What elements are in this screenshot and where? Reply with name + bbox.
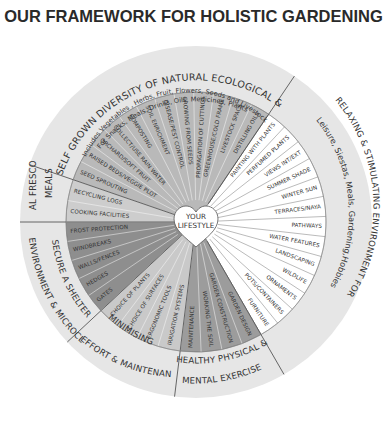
spoke-label: PATHWAYS (291, 222, 322, 229)
ring-label-alfresco-1: AL FRESCO (28, 160, 38, 210)
ring-label-alfresco-2: MEALS (44, 168, 54, 198)
framework-wheel: SEED SPROUTINGRAISED BEDS/VEGGIE PLOTORC… (0, 0, 387, 448)
center-label-line2: LIFESTYLE (178, 221, 215, 230)
center-label-line1: YOUR (185, 212, 206, 221)
